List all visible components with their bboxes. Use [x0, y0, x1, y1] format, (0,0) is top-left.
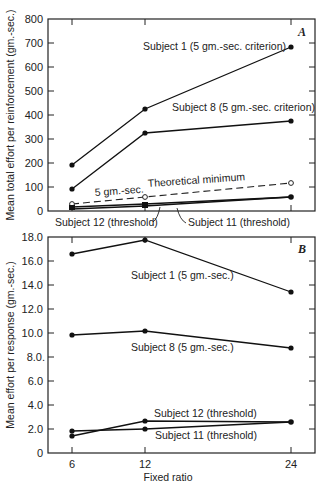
- ytick-label: 500: [25, 85, 43, 97]
- panel-a-y-axis-title: Mean total effort per reinforcement (gm.…: [4, 9, 16, 220]
- label-b-subject-8: Subject 8 (5 gm.-sec.): [131, 341, 234, 353]
- ytick-label: 300: [25, 133, 43, 145]
- ytick-label: 800: [25, 13, 43, 25]
- ytick-label: 16.0: [22, 255, 43, 267]
- xtick-label: 24: [285, 458, 297, 470]
- xtick-label: 6: [69, 458, 75, 470]
- ytick-label: 12.0: [22, 303, 43, 315]
- leader-subject-11: [177, 208, 186, 223]
- label-subject-12: Subject 12 (threshold): [55, 216, 158, 228]
- label-subject-8: Subject 8 (5 gm.-sec. criterion): [172, 101, 315, 113]
- label-subject-11: Subject 11 (threshold): [188, 216, 290, 228]
- ytick-label: 0: [37, 447, 43, 459]
- panel-b: 0 2.0 4.0 6.0 8.0. 10.0 12.0 14.0 16.0 1…: [4, 231, 315, 483]
- ytick-label: 6.0: [28, 375, 43, 387]
- ytick-label: 600: [25, 61, 43, 73]
- panel-b-y-axis-title: Mean effort per response (gm.-sec.): [4, 261, 16, 428]
- ytick-label: 100: [25, 181, 43, 193]
- series-subject-11-line: [72, 197, 291, 209]
- label-theoretical-minimum: Theoretical minimum: [147, 170, 245, 189]
- panel-b-letter: B: [297, 242, 306, 256]
- ytick-label: 4.0: [28, 399, 43, 411]
- figure: 0 100 200 300 400 500 600 700 800 Mean t…: [0, 0, 330, 486]
- label-min-prefix: 5 gm.-sec.: [94, 183, 144, 198]
- ytick-label: 0: [37, 205, 43, 217]
- panel-a: 0 100 200 300 400 500 600 700 800 Mean t…: [4, 9, 315, 228]
- ytick-label: 400: [25, 109, 43, 121]
- ytick-label: 2.0: [28, 423, 43, 435]
- panel-b-x-axis-title: Fixed ratio: [143, 471, 192, 483]
- ytick-label: 18.0: [22, 231, 43, 243]
- ytick-label: 700: [25, 37, 43, 49]
- panel-b-xtick-labels: 6 12 24: [69, 458, 297, 470]
- ytick-label: 10.0: [22, 327, 43, 339]
- xtick-label: 12: [139, 458, 151, 470]
- label-b-subject-12: Subject 12 (threshold): [154, 407, 257, 419]
- ytick-label: 8.0.: [27, 351, 45, 363]
- series-b-subject-1-markers: [69, 237, 293, 294]
- series-b-subject-1-line: [72, 240, 291, 292]
- label-b-subject-11: Subject 11 (threshold): [155, 429, 257, 441]
- label-subject-1: Subject 1 (5 gm.-sec. criterion): [143, 40, 286, 52]
- panel-a-letter: A: [297, 25, 306, 39]
- label-b-subject-1: Subject 1 (5 gm.-sec.): [131, 269, 234, 281]
- ytick-label: 200: [25, 157, 43, 169]
- ytick-label: 14.0: [22, 279, 43, 291]
- panel-b-ytick-labels: 0 2.0 4.0 6.0 8.0. 10.0 12.0 14.0 16.0 1…: [22, 231, 45, 459]
- panel-a-ytick-labels: 0 100 200 300 400 500 600 700 800: [25, 13, 43, 217]
